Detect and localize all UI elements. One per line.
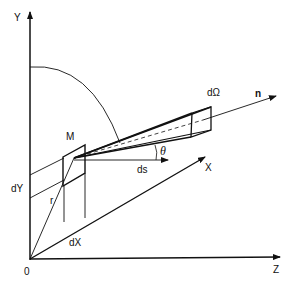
r-label: r: [50, 196, 53, 206]
dy-label: dY: [11, 184, 23, 194]
z-axis: [30, 257, 280, 259]
x-axis-label: X: [205, 163, 212, 173]
dx-label: dX: [69, 238, 81, 248]
hemisphere-arc: [30, 67, 120, 143]
normal-label: n: [255, 89, 261, 99]
theta-label: θ: [160, 145, 166, 157]
y-axis-label: Y: [14, 13, 21, 23]
diagram-drawing: [0, 0, 290, 283]
normal-arrow-n: [203, 96, 276, 120]
z-axis-label: Z: [273, 265, 279, 275]
origin-label: 0: [24, 267, 30, 277]
ds-label: ds: [137, 165, 148, 175]
solid-angle-label: dΩ: [207, 88, 220, 98]
plate-label-m: M: [66, 132, 74, 142]
radiance-geometry-diagram: Y 0 Z X M dΩ n ds θ r dY dX: [0, 0, 290, 283]
position-vector-r: [30, 158, 74, 259]
plate-m: [63, 145, 85, 186]
